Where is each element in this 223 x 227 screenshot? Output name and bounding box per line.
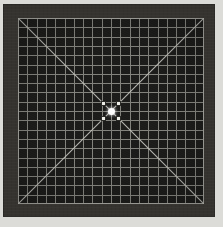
grid-lines: [18, 18, 204, 204]
screenshot-root: Grid Test Pattern Square grid calibratio…: [0, 0, 223, 227]
grid-plate: [18, 18, 204, 204]
chart-frame: [3, 4, 215, 217]
